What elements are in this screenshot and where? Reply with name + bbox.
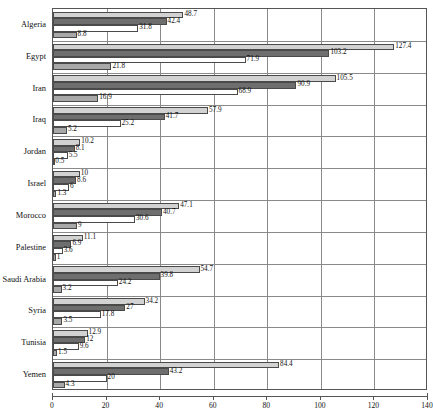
bar[interactable]	[53, 63, 111, 70]
bar-row: 12	[53, 337, 426, 344]
y-axis-label-yemen: Yemen	[23, 370, 46, 379]
bar-row: 39.8	[53, 273, 426, 280]
bar[interactable]	[53, 375, 107, 382]
bar[interactable]	[53, 120, 121, 127]
bar[interactable]	[53, 318, 62, 325]
bar-row: 1.3	[53, 191, 426, 198]
bar-value-label: 4.3	[65, 381, 75, 388]
bar-value-label: 0.5	[54, 159, 64, 166]
x-axis-tick	[213, 396, 214, 400]
bar-row: 54.7	[53, 266, 426, 273]
bar-group: 12.9129.61.5	[53, 327, 426, 359]
bar-group: 105.590.968.916.9	[53, 73, 426, 105]
y-axis-label-tunisia: Tunisia	[21, 338, 46, 347]
x-axis-end-cap	[427, 393, 428, 397]
x-axis: 020406080100120140	[52, 396, 427, 397]
bar-row: 42.4	[53, 18, 426, 25]
y-axis-label-palestine: Palestine	[16, 242, 46, 251]
bar[interactable]	[53, 223, 77, 230]
bar[interactable]	[53, 89, 238, 96]
bar[interactable]	[53, 266, 200, 273]
bar-row: 41.7	[53, 114, 426, 121]
bar-value-label: 3.2	[62, 286, 72, 293]
bar-group: 54.739.824.23.2	[53, 264, 426, 296]
bar-value-label: 5.2	[67, 127, 77, 134]
x-axis-tick-label: 40	[155, 401, 163, 410]
bar-group: 34.22717.83.5	[53, 296, 426, 328]
bar-row: 127.4	[53, 44, 426, 51]
bar-group: 10.28.15.50.5	[53, 136, 426, 168]
bar-value-label: 1.3	[56, 190, 66, 197]
bar[interactable]	[53, 216, 135, 223]
y-axis-label-syria: Syria	[28, 306, 46, 315]
bar[interactable]	[53, 362, 279, 369]
bar[interactable]	[53, 273, 160, 280]
bar-row: 48.7	[53, 12, 426, 19]
bar-row: 71.9	[53, 57, 426, 64]
y-axis-category-labels: AlgeriaEgyptIranIraqJordanIsraelMoroccoP…	[0, 8, 50, 390]
bar[interactable]	[53, 127, 67, 134]
bar-row: 57.9	[53, 107, 426, 114]
bar[interactable]	[53, 382, 65, 389]
bar-row: 1	[53, 254, 426, 261]
bar-row: 9	[53, 223, 426, 230]
bar-row: 5.5	[53, 152, 426, 159]
bar[interactable]	[53, 57, 246, 64]
bar-row: 6	[53, 184, 426, 191]
bar[interactable]	[53, 203, 179, 210]
bar-row: 11.1	[53, 235, 426, 242]
bar-row: 0.5	[53, 159, 426, 166]
bar-row: 47.1	[53, 203, 426, 210]
bar-row: 34.2	[53, 298, 426, 305]
bar-value-label: 21.8	[111, 63, 125, 70]
bar-row: 105.5	[53, 75, 426, 82]
bar[interactable]	[53, 330, 88, 337]
y-axis-label-iran: Iran	[33, 83, 46, 92]
bar-row: 16.9	[53, 95, 426, 102]
x-axis-tick	[266, 396, 267, 400]
bar-value-label: 16.9	[98, 95, 112, 102]
bar-row: 10.2	[53, 139, 426, 146]
bar[interactable]	[53, 107, 208, 114]
bar[interactable]	[53, 311, 101, 318]
y-axis-label-algeria: Algeria	[21, 19, 46, 28]
y-axis-label-morocco: Morocco	[16, 210, 46, 219]
x-axis-tick-label: 120	[368, 401, 379, 410]
bar-row: 17.8	[53, 311, 426, 318]
x-axis-tick	[106, 396, 107, 400]
bar-row: 3.2	[53, 286, 426, 293]
y-axis-label-iraq: Iraq	[33, 115, 46, 124]
bar-row: 20	[53, 375, 426, 382]
plot-area: 48.742.431.88.8127.4103.271.921.8105.590…	[52, 8, 427, 390]
bar-row: 8.8	[53, 32, 426, 39]
x-axis-tick-label: 0	[50, 401, 54, 410]
bar-row: 9.6	[53, 343, 426, 350]
bar-group: 11.16.93.61	[53, 232, 426, 264]
bar[interactable]	[53, 286, 62, 293]
bar-group: 84.443.2204.3	[53, 359, 426, 391]
bar-row: 3.6	[53, 248, 426, 255]
bar[interactable]	[53, 12, 183, 19]
bar[interactable]	[53, 82, 296, 89]
bar-row: 8.6	[53, 177, 426, 184]
x-axis-tick-label: 60	[209, 401, 217, 410]
bar[interactable]	[53, 32, 77, 39]
x-axis-start-cap	[52, 393, 53, 397]
bar-row: 8.1	[53, 146, 426, 153]
bar-groups: 48.742.431.88.8127.4103.271.921.8105.590…	[53, 9, 426, 389]
bar-row: 5.2	[53, 127, 426, 134]
bar[interactable]	[53, 95, 98, 102]
bar-row: 12.9	[53, 330, 426, 337]
bar[interactable]	[53, 25, 138, 32]
bar-group: 47.140.730.69	[53, 200, 426, 232]
bar-value-label: 9	[77, 222, 82, 229]
bar[interactable]	[53, 114, 165, 121]
bar-row: 31.8	[53, 25, 426, 32]
bar-row: 24.2	[53, 280, 426, 287]
bar[interactable]	[53, 50, 329, 57]
bar-row: 30.6	[53, 216, 426, 223]
bar-row: 40.7	[53, 209, 426, 216]
x-axis-tick-label: 140	[421, 401, 432, 410]
x-axis-tick	[159, 396, 160, 400]
bar[interactable]	[53, 75, 336, 82]
